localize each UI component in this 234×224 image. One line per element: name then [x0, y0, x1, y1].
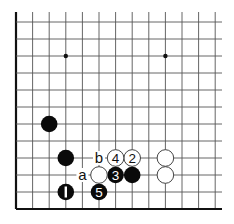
black-stone-1	[58, 184, 75, 201]
white-stone-icon	[157, 150, 174, 167]
white-stone-2: 2	[124, 150, 141, 167]
hoshi-point-icon	[163, 54, 167, 58]
white-stone-icon	[91, 167, 108, 184]
black-stone-3: 3	[107, 167, 124, 184]
black-stone-icon	[58, 150, 75, 167]
mark-label-b: b	[95, 149, 103, 166]
black-stone	[58, 150, 75, 167]
move-number-1	[65, 187, 67, 198]
black-stone-5: 5	[91, 184, 108, 201]
hoshi-point-icon	[64, 54, 68, 58]
move-number-2: 2	[128, 151, 136, 166]
black-stone-icon	[124, 167, 141, 184]
black-stone	[41, 116, 58, 133]
mark-label-a: a	[78, 166, 87, 183]
white-stone	[157, 167, 174, 184]
move-number-4: 4	[112, 151, 120, 166]
move-number-3: 3	[112, 168, 120, 183]
move-number-5: 5	[95, 185, 103, 200]
black-stone	[124, 167, 141, 184]
white-stone	[91, 167, 108, 184]
white-stone-icon	[157, 167, 174, 184]
black-stone-icon	[41, 116, 58, 133]
white-stone-4: 4	[107, 150, 124, 167]
white-stone	[157, 150, 174, 167]
go-board: ba 2345	[0, 0, 234, 224]
